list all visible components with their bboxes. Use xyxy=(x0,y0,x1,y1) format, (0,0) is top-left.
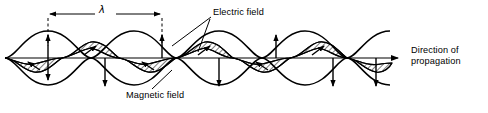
direction-line-1: Direction of xyxy=(411,45,459,55)
direction-line-2: propagation xyxy=(411,56,461,66)
wavelength-label: λ xyxy=(99,5,105,16)
electric-field-label: Electric field xyxy=(213,7,264,18)
wavelength-marker xyxy=(48,14,162,46)
magnetic-field-leader xyxy=(152,70,172,89)
magnetic-field-label: Magnetic field xyxy=(126,90,184,101)
figure-container: λ Electric field Magnetic field Directio… xyxy=(0,0,488,113)
label-leader-lines xyxy=(152,17,211,89)
direction-of-propagation-label: Direction ofpropagation xyxy=(411,45,461,66)
